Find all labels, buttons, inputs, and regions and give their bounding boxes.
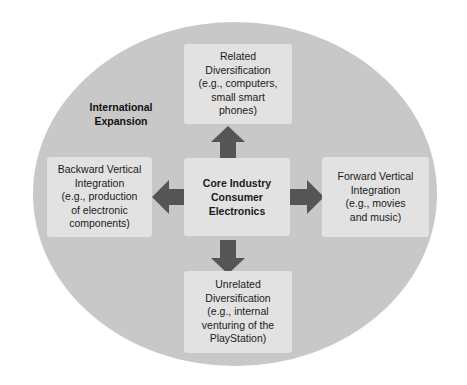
- arrow-down-icon: [211, 240, 245, 274]
- arrow-up-icon: [211, 126, 245, 160]
- node-core-industry-label: Core Industry Consumer Electronics: [203, 176, 271, 218]
- node-unrelated-diversification: Unrelated Diversification (e.g., interna…: [184, 271, 292, 353]
- node-backward-vertical-integration: Backward Vertical Integration (e.g., pro…: [47, 157, 152, 237]
- diversification-diagram: International Expansion Related Diversif…: [0, 0, 467, 385]
- international-expansion-label: International Expansion: [61, 101, 181, 128]
- arrow-left-icon: [152, 180, 186, 214]
- arrow-right-icon: [290, 180, 324, 214]
- node-forward-vertical-integration-label: Forward Vertical Integration (e.g., movi…: [338, 170, 414, 224]
- node-forward-vertical-integration: Forward Vertical Integration (e.g., movi…: [322, 157, 429, 237]
- node-backward-vertical-integration-label: Backward Vertical Integration (e.g., pro…: [58, 163, 141, 231]
- node-related-diversification: Related Diversification (e.g., computers…: [184, 44, 292, 124]
- node-related-diversification-label: Related Diversification (e.g., computers…: [199, 50, 278, 118]
- node-unrelated-diversification-label: Unrelated Diversification (e.g., interna…: [202, 278, 274, 346]
- node-core-industry: Core Industry Consumer Electronics: [184, 158, 290, 236]
